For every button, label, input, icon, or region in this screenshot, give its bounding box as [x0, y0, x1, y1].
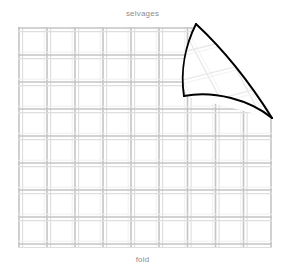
- fabric-illustration: [0, 0, 285, 278]
- fold-label: fold: [0, 255, 285, 264]
- fabric-fold-diagram: selvages: [0, 0, 285, 278]
- fabric-ground: [18, 27, 272, 248]
- plaid-horizontal-bands: [18, 25, 272, 247]
- plaid-grid: [16, 25, 272, 248]
